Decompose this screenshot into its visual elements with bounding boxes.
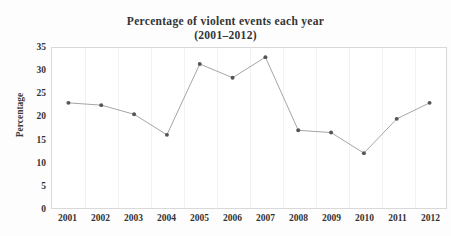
- chart-title-line1: Percentage of violent events each year: [127, 15, 324, 27]
- data-point-marker: [66, 101, 70, 105]
- y-axis-tick-label: 20: [22, 111, 46, 121]
- y-axis-tick-label: 15: [22, 135, 46, 145]
- data-point-marker: [296, 128, 300, 132]
- data-point-marker: [132, 112, 136, 116]
- x-axis-tick-labels: 2001200220032004200520062007200820092010…: [51, 213, 447, 231]
- x-axis-tick-label: 2012: [411, 213, 451, 223]
- series-line: [68, 57, 429, 153]
- chart-container: Percentage of violent events each year (…: [0, 0, 451, 236]
- data-point-marker: [362, 151, 366, 155]
- data-point-marker: [395, 117, 399, 121]
- y-axis-tick-label: 10: [22, 158, 46, 168]
- data-point-marker: [165, 133, 169, 137]
- y-axis-tick-labels: 05101520253035: [22, 0, 46, 236]
- y-axis-tick-label: 25: [22, 88, 46, 98]
- y-axis-tick-label: 5: [22, 181, 46, 191]
- data-point-marker: [428, 101, 432, 105]
- data-point-marker: [329, 131, 333, 135]
- data-point-marker: [231, 76, 235, 80]
- data-point-marker: [198, 62, 202, 66]
- y-axis-tick-label: 35: [22, 42, 46, 52]
- chart-title: Percentage of violent events each year (…: [0, 14, 451, 42]
- chart-title-line2: (2001–2012): [0, 28, 451, 42]
- plot-area: [51, 47, 447, 209]
- data-point-marker: [263, 55, 267, 59]
- y-axis-tick-label: 0: [22, 204, 46, 214]
- data-point-marker: [99, 103, 103, 107]
- data-series-line: [52, 48, 446, 208]
- y-axis-tick-label: 30: [22, 65, 46, 75]
